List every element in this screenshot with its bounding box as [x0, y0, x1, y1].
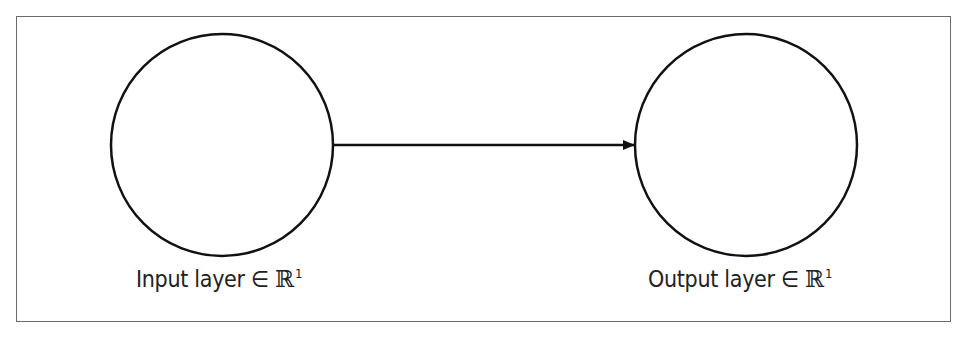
real-numbers-symbol: ℝ [805, 266, 824, 292]
element-of-symbol: ∈ [781, 266, 799, 292]
element-of-symbol: ∈ [251, 266, 269, 292]
output-layer-node [635, 34, 857, 256]
real-numbers-symbol: ℝ [275, 266, 294, 292]
input-layer-text: Input layer [136, 266, 245, 292]
dimension-exponent: 1 [825, 266, 832, 281]
output-layer-label: Output layer ∈ ℝ1 [648, 266, 832, 292]
output-layer-text: Output layer [648, 266, 775, 292]
dimension-exponent: 1 [295, 266, 302, 281]
input-layer-node [111, 34, 333, 256]
input-layer-label: Input layer ∈ ℝ1 [136, 266, 302, 292]
